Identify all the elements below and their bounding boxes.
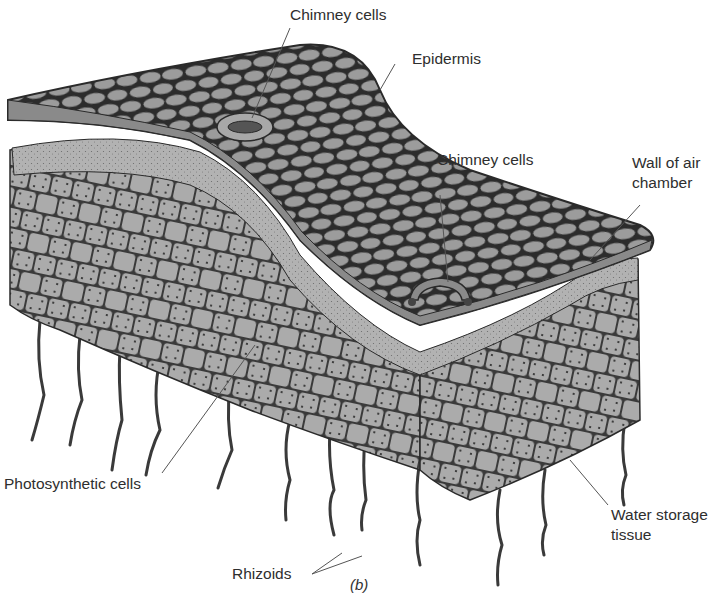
label-wall-of-air-chamber-line2: chamber (632, 173, 692, 192)
label-chimney-cells-right: Chimney cells (437, 150, 533, 169)
figure-caption: (b) (350, 576, 368, 593)
label-water-storage-tissue-line2: tissue (611, 525, 652, 544)
label-chimney-cells-top: Chimney cells (290, 5, 386, 24)
label-wall-of-air-chamber-line1: Wall of air (632, 153, 700, 172)
chimney-pore-top (217, 113, 273, 141)
label-water-storage-tissue-line1: Water storage (611, 505, 708, 524)
label-epidermis: Epidermis (412, 49, 481, 68)
label-photosynthetic-cells: Photosynthetic cells (4, 474, 141, 493)
label-rhizoids: Rhizoids (232, 564, 291, 583)
